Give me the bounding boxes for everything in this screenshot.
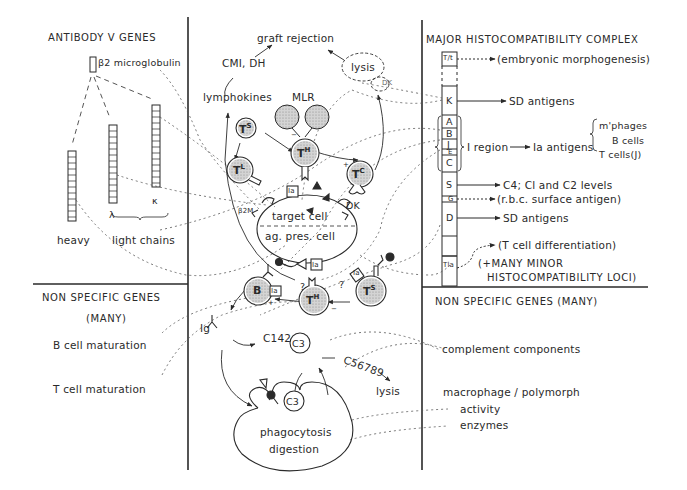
ia-label-top: Ia bbox=[288, 188, 295, 195]
nonspecific-left-title: NON SPECIFIC GENES bbox=[42, 293, 161, 303]
product-sd-antigens-d: SD antigens bbox=[503, 213, 569, 224]
lymphokines-label: lymphokines bbox=[203, 92, 272, 103]
locus-k: K bbox=[446, 96, 452, 106]
product-rbc-surface: (r.b.c. surface antigen) bbox=[497, 194, 621, 205]
lysis-bottom-label: lysis bbox=[376, 386, 400, 397]
locus-b: B bbox=[446, 129, 453, 139]
macrophage-polymorph-label: macrophage / polymorph bbox=[443, 387, 580, 398]
ts-lower-label: TS bbox=[363, 285, 376, 297]
mlr-cells bbox=[275, 105, 329, 137]
i-region-label: I region bbox=[467, 142, 508, 153]
lambda-label: λ bbox=[109, 210, 115, 220]
kappa-label: κ bbox=[152, 196, 158, 206]
cmi-dh-label: CMI, DH bbox=[222, 58, 266, 69]
target-cell-label: target cell bbox=[272, 211, 328, 222]
tc-cell-label: TC bbox=[352, 168, 365, 180]
locus-tla: Tla bbox=[443, 262, 454, 269]
nonspecific-left-subtitle: (MANY) bbox=[86, 314, 126, 324]
th-lower-label: TH bbox=[306, 294, 319, 306]
ia-label-bottom: Ia bbox=[312, 262, 319, 269]
heavy-chain-label: heavy bbox=[57, 235, 90, 246]
locus-c: C bbox=[446, 158, 453, 168]
enzymes-label: enzymes bbox=[460, 420, 508, 431]
mlr-label: MLR bbox=[292, 92, 315, 103]
antibody-panel-title: ANTIBODY V GENES bbox=[48, 33, 156, 43]
b2m-label: β2M bbox=[238, 208, 254, 215]
activity-label: activity bbox=[460, 404, 500, 415]
ts-cell-label: TS bbox=[239, 123, 252, 135]
tl-cell-label: TL bbox=[233, 164, 245, 176]
product-embryonic: (embryonic morphogenesis) bbox=[497, 54, 650, 65]
locus-tt: T/t bbox=[443, 55, 453, 62]
phagocytosis-label: phagocytosis bbox=[260, 427, 332, 438]
dk-top-label: DK bbox=[382, 80, 392, 87]
product-c4-levels: C4; Cl and C2 levels bbox=[503, 180, 612, 191]
minor-loci-line1: (+MANY MINOR bbox=[478, 259, 564, 269]
plus-sign-th-tc: + bbox=[343, 162, 349, 169]
b-cell-maturation-label: B cell maturation bbox=[53, 340, 147, 351]
locus-g: G bbox=[448, 196, 454, 203]
dk-label: DK bbox=[346, 201, 360, 211]
c142-label: C142 bbox=[263, 333, 291, 344]
locus-a: A bbox=[446, 117, 453, 127]
c3-label: C3 bbox=[292, 339, 305, 349]
locus-d: D bbox=[446, 213, 454, 223]
complement-components-label: complement components bbox=[442, 344, 580, 355]
beta2-microglobulin-label: β2 microglobulin bbox=[98, 58, 181, 68]
th-cell-label: TH bbox=[297, 147, 310, 159]
locus-s: S bbox=[446, 180, 452, 190]
graft-rejection-label: graft rejection bbox=[257, 33, 334, 44]
nonspecific-right-title: NON SPECIFIC GENES (MANY) bbox=[435, 297, 598, 307]
ig-label: Ig bbox=[200, 323, 210, 334]
ia-target-macrophages: m'phages bbox=[599, 121, 647, 131]
minus-sign-ts-th: − bbox=[291, 132, 297, 139]
minor-loci-line2: HISTOCOMPATIBILITY LOCI) bbox=[487, 273, 637, 283]
ia-antigens-label: Ia antigens bbox=[533, 142, 593, 153]
digestion-label: digestion bbox=[269, 444, 319, 455]
lysis-top-label: lysis bbox=[351, 62, 375, 73]
ia-label-b: Ia bbox=[271, 288, 278, 295]
c3-phagocyte-label: C3 bbox=[286, 397, 299, 407]
t-cell-maturation-label: T cell maturation bbox=[53, 384, 146, 395]
ia-target-t-cells: T cells(J) bbox=[599, 150, 641, 160]
mhc-panel-title: MAJOR HISTOCOMPATIBILITY COMPLEX bbox=[426, 35, 638, 45]
light-chains-label: light chains bbox=[112, 235, 175, 246]
product-t-cell-differentiation: (T cell differentiation) bbox=[498, 240, 616, 251]
product-sd-antigens-k: SD antigens bbox=[509, 96, 575, 107]
minus-sign-th: − bbox=[331, 306, 337, 313]
ag-pres-cell-label: ag. pres. cell bbox=[265, 231, 335, 242]
question-mark-1: ? bbox=[300, 282, 305, 292]
ia-target-b-cells: B cells bbox=[612, 136, 644, 146]
locus-e: E bbox=[448, 149, 453, 156]
ia-label-ts: Ia bbox=[353, 270, 360, 277]
plus-sign-b: + bbox=[268, 300, 274, 307]
b-cell-label: B bbox=[253, 285, 261, 296]
question-mark-2: ? bbox=[339, 280, 344, 290]
